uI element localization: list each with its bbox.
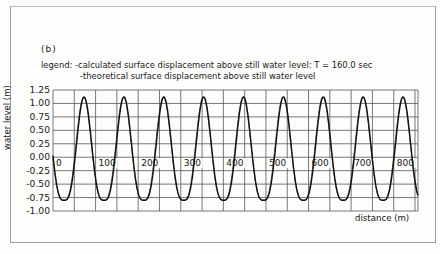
x-tick-label: 700 [354,158,371,168]
x-tick-label: 0 [56,158,62,168]
x-tick-label: 300 [184,158,201,168]
x-axis-ticks: 0100200300400500600700800 [55,158,416,168]
x-tick-label: 800 [397,158,414,168]
x-tick-label: 200 [141,158,158,168]
x-tick-label: 500 [269,158,286,168]
calculated-series-line [53,97,418,200]
x-tick-label: 400 [226,158,243,168]
x-axis-label: distance (m) [355,213,409,223]
